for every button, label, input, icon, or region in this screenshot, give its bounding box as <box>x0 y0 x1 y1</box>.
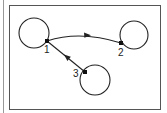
node-1-point <box>45 39 49 43</box>
edge-1-to-2 <box>47 36 121 43</box>
node-3-point <box>83 70 87 74</box>
trajectory-diagram: 1 2 3 <box>0 0 167 113</box>
node-1-label: 1 <box>44 44 50 55</box>
node-2-point <box>119 41 123 45</box>
node-3-circle <box>80 65 110 95</box>
node-2-circle <box>120 21 148 49</box>
node-3-label: 3 <box>73 68 79 79</box>
node-2-label: 2 <box>118 47 124 58</box>
